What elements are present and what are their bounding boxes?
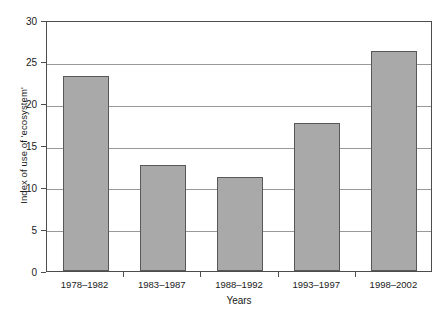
- x-tick-mark: [200, 272, 201, 277]
- y-tick: 5: [0, 225, 46, 236]
- y-tick-label: 30: [26, 16, 37, 27]
- y-tick: 25: [0, 57, 46, 68]
- y-tick: 20: [0, 99, 46, 110]
- bar: [217, 177, 263, 271]
- plot-area: [46, 21, 432, 272]
- bar: [294, 123, 340, 271]
- x-tick-label: 1993–1997: [278, 279, 355, 290]
- y-tick-label: 0: [31, 267, 37, 278]
- x-tick-label: 1983–1987: [123, 279, 200, 290]
- x-tick-label: 1998–2002: [355, 279, 432, 290]
- y-tick: 15: [0, 141, 46, 152]
- bar-series: [47, 22, 431, 271]
- bar: [140, 165, 186, 271]
- y-tick-label: 20: [26, 99, 37, 110]
- y-axis-ticks: 051015202530: [0, 0, 46, 315]
- y-tick: 30: [0, 16, 46, 27]
- x-axis-title: Years: [46, 295, 432, 306]
- bar: [371, 51, 417, 271]
- x-tick-mark: [355, 272, 356, 277]
- bar-chart-figure: Index of use of 'ecosystem' 051015202530…: [0, 0, 447, 315]
- y-tick: 10: [0, 183, 46, 194]
- y-tick-label: 25: [26, 57, 37, 68]
- y-tick-label: 15: [26, 141, 37, 152]
- y-tick: 0: [0, 267, 46, 278]
- y-tick-label: 5: [31, 225, 37, 236]
- x-tick-mark: [278, 272, 279, 277]
- x-tick-label: 1978–1982: [46, 279, 123, 290]
- bar: [63, 76, 109, 271]
- x-tick-label: 1988–1992: [200, 279, 277, 290]
- y-tick-label: 10: [26, 183, 37, 194]
- x-tick-mark: [123, 272, 124, 277]
